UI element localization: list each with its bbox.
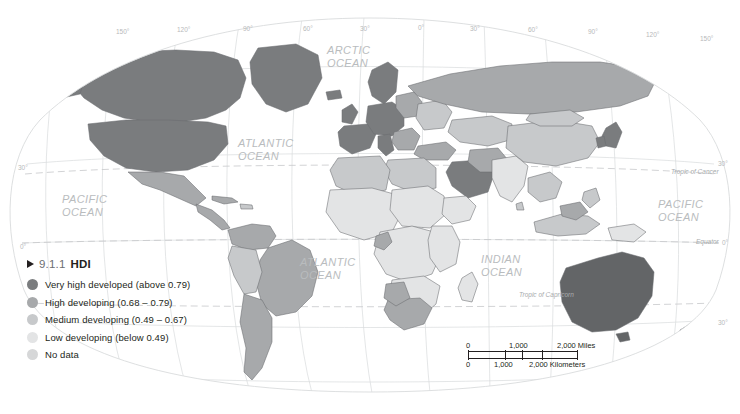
ocean-label-4: INDIAN OCEAN bbox=[481, 253, 522, 278]
latitude-label-2: 30° bbox=[718, 160, 728, 167]
legend-item-very-high-developed[interactable]: Very high developed (above 0.79) bbox=[27, 276, 252, 294]
longitude-label-4: 30° bbox=[360, 25, 370, 32]
scale-tick-0 bbox=[468, 350, 469, 360]
legend-item-no-data[interactable]: No data bbox=[27, 346, 252, 364]
scale-bar-km-ticks: 0 1,000 2,000 Kilometers bbox=[468, 360, 648, 371]
legend-swatch-no-data bbox=[27, 349, 38, 360]
ocean-label-3: ATLANTIC OCEAN bbox=[300, 256, 356, 281]
country-alaska bbox=[48, 70, 84, 98]
legend-title-text: HDI bbox=[71, 258, 91, 270]
country-hispaniola bbox=[240, 204, 253, 209]
map-scale-bar: 0 1,000 2,000 Miles 0 1,000 2,000 Kilome… bbox=[468, 341, 648, 371]
legend-label-very-high-developed: Very high developed (above 0.79) bbox=[45, 279, 190, 290]
country-korea bbox=[596, 136, 606, 148]
scale-miles-end: 2,000 Miles bbox=[557, 341, 595, 350]
map-legend: 9.1.1 HDI Very high developed (above 0.7… bbox=[27, 258, 252, 364]
longitude-label-3: 60° bbox=[303, 25, 313, 32]
scale-tick-1 bbox=[505, 350, 506, 360]
equator-label: Equator bbox=[696, 238, 719, 245]
longitude-label-8: 90° bbox=[588, 28, 598, 35]
scale-km-mid: 1,000 bbox=[494, 360, 513, 369]
longitude-label-1: 120° bbox=[177, 26, 190, 33]
country-iceland bbox=[326, 90, 342, 100]
longitude-label-6: 30° bbox=[470, 25, 480, 32]
legend-swatch-low-developing bbox=[27, 332, 38, 343]
latitude-label-3: 0° bbox=[722, 239, 728, 246]
legend-item-high-developing[interactable]: High developing (0.68 – 0.79) bbox=[27, 294, 252, 312]
longitude-label-0: 150° bbox=[116, 28, 129, 35]
world-map-figure: ARCTIC OCEAN PACIFIC OCEAN ATLANTIC OCEA… bbox=[0, 0, 740, 414]
tropic-of-cancer-label: Tropic of Cancer bbox=[671, 168, 719, 175]
legend-swatch-high-developing bbox=[27, 297, 38, 308]
scale-tick-3 bbox=[522, 350, 523, 360]
legend-label-high-developing: High developing (0.68 – 0.79) bbox=[45, 297, 173, 308]
triangle-right-icon bbox=[27, 260, 34, 268]
longitude-label-7: 60° bbox=[528, 26, 538, 33]
country-new-zealand-south bbox=[666, 340, 686, 362]
legend-label-low-developing: Low developing (below 0.49) bbox=[45, 332, 169, 343]
scale-tick-4 bbox=[577, 350, 578, 360]
scale-miles-zero: 0 bbox=[466, 341, 470, 350]
scale-bar-miles-ticks: 0 1,000 2,000 Miles bbox=[468, 341, 648, 351]
latitude-label-4: 30° bbox=[718, 319, 728, 326]
scale-tick-2 bbox=[542, 350, 543, 360]
longitude-label-5: 0° bbox=[418, 24, 424, 31]
legend-swatch-medium-developing bbox=[27, 314, 38, 325]
legend-number: 9.1.1 bbox=[39, 258, 66, 270]
legend-item-low-developing[interactable]: Low developing (below 0.49) bbox=[27, 329, 252, 347]
latitude-label-1: 0° bbox=[20, 243, 26, 250]
ocean-label-1: PACIFIC OCEAN bbox=[62, 193, 107, 218]
legend-label-medium-developing: Medium developing (0.49 – 0.67) bbox=[45, 314, 187, 325]
latitude-label-0: 30° bbox=[18, 164, 28, 171]
longitude-label-2: 90° bbox=[243, 25, 253, 32]
legend-title: 9.1.1 HDI bbox=[27, 258, 252, 270]
scale-km-end: 2,000 Kilometers bbox=[529, 360, 585, 369]
ocean-label-2: ATLANTIC OCEAN bbox=[238, 137, 294, 162]
scale-bar-line bbox=[468, 351, 578, 359]
scale-km-zero: 0 bbox=[466, 360, 470, 369]
legend-swatch-very-high-developed bbox=[27, 279, 38, 290]
longitude-label-10: 150° bbox=[700, 35, 713, 42]
tropic-of-capricorn-label: Tropic of Capricorn bbox=[519, 291, 574, 298]
scale-miles-mid: 1,000 bbox=[509, 341, 528, 350]
longitude-label-9: 120° bbox=[646, 31, 659, 38]
legend-label-no-data: No data bbox=[45, 349, 79, 360]
ocean-label-0: ARCTIC OCEAN bbox=[327, 44, 370, 69]
ocean-label-5: PACIFIC OCEAN bbox=[658, 198, 703, 223]
legend-item-medium-developing[interactable]: Medium developing (0.49 – 0.67) bbox=[27, 311, 252, 329]
